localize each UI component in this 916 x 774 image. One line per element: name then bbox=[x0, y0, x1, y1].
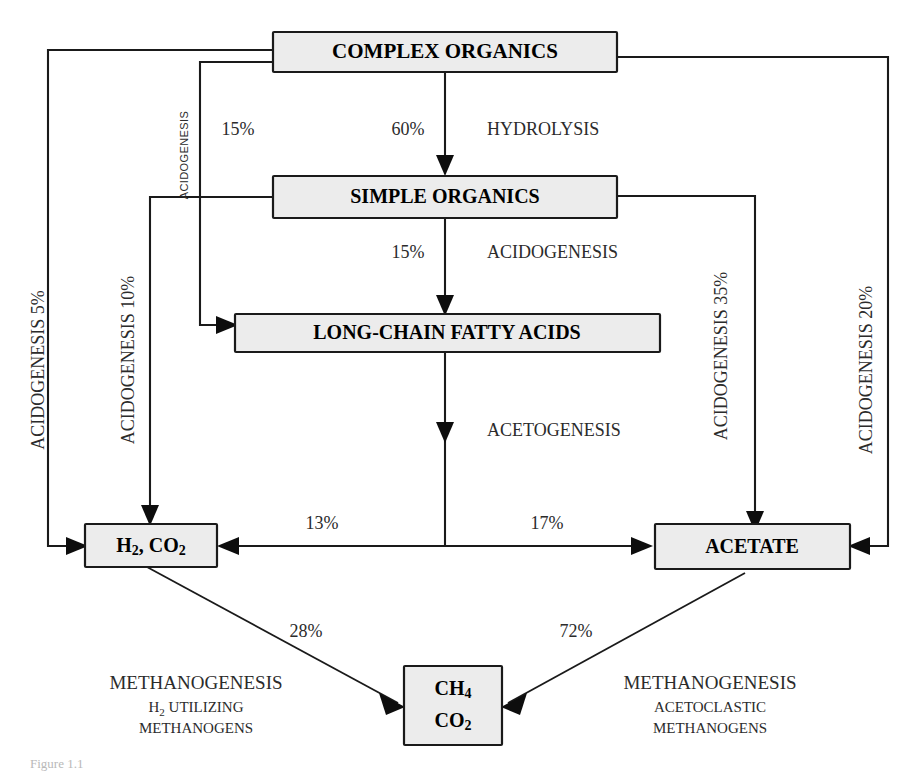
edge-complex-to-acetate bbox=[617, 57, 888, 546]
edge-simple-to-h2co2 bbox=[150, 197, 273, 514]
methanogenesis-left-caption: METHANOGENESIS H2 UTILIZING METHANOGENS bbox=[109, 672, 282, 736]
arrowhead-simple-to-lcfa bbox=[436, 295, 454, 316]
arrowhead-acetogenesis bbox=[436, 422, 454, 443]
arrowhead-acetogenesis-to-acetate bbox=[631, 537, 653, 555]
methanogenesis-right-title: METHANOGENESIS bbox=[623, 672, 796, 693]
methanogenesis-right-caption: METHANOGENESIS ACETOCLASTIC METHANOGENS bbox=[623, 672, 796, 736]
edge-simple-to-acetate bbox=[617, 196, 755, 521]
edge-complex-to-lcfa bbox=[200, 62, 273, 325]
arrowhead-h2co2-to-ch4 bbox=[379, 693, 405, 715]
node-long-chain-fatty-acids[interactable]: LONG-CHAIN FATTY ACIDS bbox=[235, 314, 660, 352]
flow-diagram-canvas: COMPLEX ORGANICS SIMPLE ORGANICS LONG-CH… bbox=[0, 0, 916, 774]
node-h2-co2[interactable]: H2, CO2 bbox=[85, 524, 217, 567]
node-label-complex-organics: COMPLEX ORGANICS bbox=[332, 39, 558, 63]
node-label-long-chain-fatty-acids: LONG-CHAIN FATTY ACIDS bbox=[313, 321, 580, 343]
label-acidogenesis-20: ACIDOGENESIS 20% bbox=[856, 286, 876, 455]
label-hydrolysis-percent: 60% bbox=[392, 119, 425, 139]
label-acidogenesis-simple: ACIDOGENESIS bbox=[487, 242, 618, 262]
h2-co2-mid: , CO bbox=[139, 534, 179, 556]
methanogenesis-right-sub2: METHANOGENS bbox=[653, 720, 767, 736]
label-acetogenesis: ACETOGENESIS bbox=[487, 420, 621, 440]
node-acetate[interactable]: ACETATE bbox=[655, 524, 850, 569]
arrowhead-simple-to-h2co2 bbox=[141, 505, 159, 526]
arrowhead-complex-to-acetate bbox=[848, 537, 870, 555]
methanogenesis-left-title: METHANOGENESIS bbox=[109, 672, 282, 693]
label-h2co2-to-ch4-percent: 28% bbox=[290, 621, 323, 641]
h2-co2-sub-2b: 2 bbox=[179, 543, 186, 558]
co2-co: CO bbox=[435, 709, 465, 731]
ch4-ch: CH bbox=[435, 677, 465, 699]
label-hydrolysis: HYDROLYSIS bbox=[487, 119, 599, 139]
arrowhead-hydrolysis bbox=[436, 155, 454, 176]
label-acidogenesis-35: ACIDOGENESIS 35% bbox=[711, 272, 731, 441]
meth-left-utilizing: UTILIZING bbox=[165, 699, 244, 715]
label-acetogenesis-h2co2-percent: 13% bbox=[306, 513, 339, 533]
methanogenesis-left-sub1: H2 UTILIZING bbox=[148, 699, 243, 718]
label-acetate-to-ch4-percent: 72% bbox=[560, 621, 593, 641]
co2-sub: 2 bbox=[465, 718, 472, 733]
label-acidogenesis-10: ACIDOGENESIS 10% bbox=[118, 276, 138, 445]
label-acidogenesis-5: ACIDOGENESIS 5% bbox=[28, 290, 48, 450]
h2-co2-sub-2: 2 bbox=[132, 543, 139, 558]
h2-co2-h: H bbox=[116, 534, 132, 556]
label-acetogenesis-acetate-percent: 17% bbox=[531, 513, 564, 533]
figure-caption: Figure 1.1 bbox=[30, 756, 83, 771]
arrowhead-acetogenesis-to-h2co2 bbox=[217, 537, 239, 555]
anaerobic-digestion-diagram: COMPLEX ORGANICS SIMPLE ORGANICS LONG-CH… bbox=[0, 0, 916, 774]
meth-left-h: H bbox=[148, 699, 159, 715]
methanogenesis-right-sub1: ACETOCLASTIC bbox=[654, 699, 766, 715]
node-label-acetate: ACETATE bbox=[705, 535, 799, 557]
node-complex-organics[interactable]: COMPLEX ORGANICS bbox=[273, 32, 617, 72]
arrowhead-acetate-to-ch4 bbox=[501, 693, 527, 715]
label-complex-to-lcfa-percent: 15% bbox=[222, 119, 255, 139]
ch4-sub: 4 bbox=[465, 686, 472, 701]
node-simple-organics[interactable]: SIMPLE ORGANICS bbox=[273, 176, 617, 218]
node-ch4-co2[interactable]: CH4 CO2 bbox=[404, 666, 502, 745]
label-acidogenesis-vertical-top: ACIDOGENESIS bbox=[178, 111, 190, 200]
node-label-simple-organics: SIMPLE ORGANICS bbox=[350, 185, 539, 207]
node-label-h2-co2: H2, CO2 bbox=[116, 534, 186, 559]
label-simple-to-lcfa-percent: 15% bbox=[392, 242, 425, 262]
methanogenesis-left-sub2: METHANOGENS bbox=[139, 720, 253, 736]
